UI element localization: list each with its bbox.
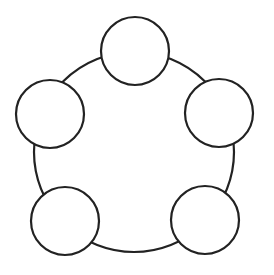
ring-diagram [0, 0, 274, 275]
node-circle-upper-right [185, 79, 253, 147]
node-circle-upper-left [16, 80, 84, 148]
node-circle-lower-left [31, 187, 99, 255]
node-circle-top [101, 17, 169, 85]
node-circle-lower-right [171, 186, 239, 254]
